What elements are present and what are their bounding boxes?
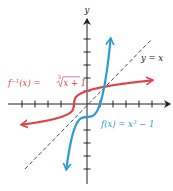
svg-text:f(x) = x3 − 1: f(x) = x3 − 1 <box>100 119 154 130</box>
inverse-function-label: f−1(x) = 3 x + 1 <box>7 74 86 88</box>
y-axis-label: y <box>84 5 90 15</box>
function-label: f(x) = x3 − 1 <box>100 119 154 130</box>
svg-text:f−1(x) =: f−1(x) = <box>7 78 41 89</box>
svg-text:3: 3 <box>58 74 61 80</box>
graph-canvas: y y = x f−1(x) = 3 x + 1 f(x) = x3 − 1 <box>0 0 173 191</box>
identity-label: y = x <box>140 53 163 63</box>
svg-text:x + 1: x + 1 <box>64 78 87 88</box>
